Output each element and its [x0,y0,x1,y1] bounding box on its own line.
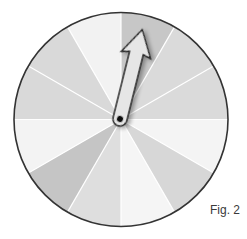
figure-caption: Fig. 2 [210,203,240,217]
